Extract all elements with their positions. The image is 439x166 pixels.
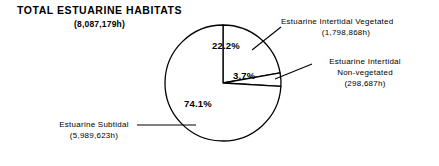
slice-label-nonvegetated-name-line1: Estuarine Intertidal [305, 56, 425, 67]
slice-label-vegetated-value: (1,798,868h) [281, 27, 431, 38]
slice-percent-subtidal: 74.1% [184, 98, 212, 109]
slice-label-vegetated: Estuarine Intertidal Vegetated (1,798,86… [281, 16, 431, 38]
slice-label-nonvegetated: Estuarine Intertidal Non-vegetated (298,… [305, 56, 425, 89]
slice-percent-nonvegetated: 3.7% [233, 70, 255, 81]
slice-label-subtidal-value: (5,989,623h) [34, 130, 154, 141]
slice-label-vegetated-name: Estuarine Intertidal Vegetated [281, 16, 431, 27]
slice-label-nonvegetated-name-line2: Non-vegetated [305, 67, 425, 78]
pie-chart-figure: TOTAL ESTUARINE HABITATS (8,087,179h) 22… [0, 0, 439, 166]
slice-label-subtidal: Estuarine Subtidal (5,989,623h) [34, 119, 154, 141]
slice-percent-vegetated: 22.2% [212, 40, 240, 51]
slice-label-nonvegetated-value: (298,687h) [305, 78, 425, 89]
slice-label-subtidal-name: Estuarine Subtidal [34, 119, 154, 130]
